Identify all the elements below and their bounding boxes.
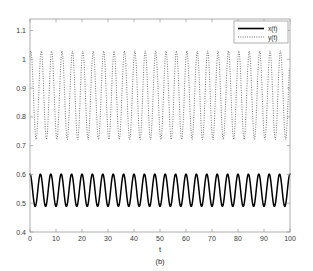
x-tick-label: 80 — [234, 235, 242, 242]
legend-label-x: x(t) — [268, 25, 277, 33]
y-tick-label: 0.7 — [16, 142, 26, 149]
y-tick-label: 1.1 — [16, 27, 26, 34]
legend-box — [234, 21, 288, 43]
x-tick-label: 30 — [104, 235, 112, 242]
x-tick-label: 50 — [156, 235, 164, 242]
x-tick-label: 90 — [260, 235, 268, 242]
figure-panel: 0102030405060708090100 0.40.50.60.70.80.… — [0, 0, 313, 271]
x-tick-label: 60 — [182, 235, 190, 242]
y-tick-label: 0.5 — [16, 200, 26, 207]
x-tick-labels: 0102030405060708090100 — [28, 235, 296, 242]
y-tick-labels: 0.40.50.60.70.80.911.1 — [16, 27, 26, 235]
y-tick-label: 0.4 — [16, 229, 26, 236]
x-tick-label: 10 — [52, 235, 60, 242]
x-tick-label: 0 — [28, 235, 32, 242]
x-tick-label: 70 — [208, 235, 216, 242]
y-tick-label: 0.6 — [16, 171, 26, 178]
y-tick-label: 0.8 — [16, 113, 26, 120]
x-tick-label: 100 — [284, 235, 296, 242]
y-tick-label: 0.9 — [16, 85, 26, 92]
plot-background — [30, 19, 290, 232]
legend-label-y: y(t) — [268, 34, 277, 42]
x-tick-label: 20 — [78, 235, 86, 242]
line-chart: 0102030405060708090100 0.40.50.60.70.80.… — [0, 0, 313, 271]
figure-caption: (b) — [155, 257, 165, 266]
chart-legend[interactable]: x(t) y(t) — [234, 21, 288, 43]
x-tick-label: 40 — [130, 235, 138, 242]
x-axis-title: t — [159, 245, 162, 254]
y-tick-label: 1 — [22, 56, 26, 63]
